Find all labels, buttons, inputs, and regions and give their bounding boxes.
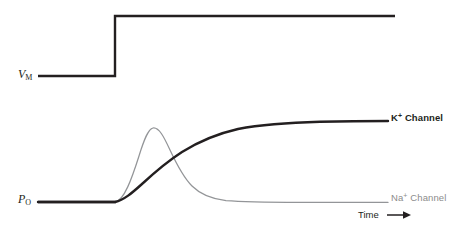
- time-arrow-icon: [387, 211, 411, 219]
- na-channel-suffix: Channel: [408, 192, 447, 203]
- na-channel-label: Na+ Channel: [391, 193, 446, 203]
- na-channel-curve: [38, 128, 388, 202]
- na-channel-charge: +: [403, 192, 407, 199]
- vm-axis-label: VM: [18, 68, 32, 80]
- k-channel-label: K+ Channel: [391, 113, 443, 123]
- voltage-step-trace: [38, 16, 395, 76]
- k-channel-ion: K: [391, 112, 398, 123]
- figure-container: VM PO K+ Channel Na+ Channel Time: [0, 0, 469, 232]
- k-channel-charge: +: [398, 112, 402, 119]
- vm-subscript: M: [25, 73, 32, 82]
- k-channel-curve: [38, 121, 388, 202]
- po-axis-label: PO: [18, 193, 31, 205]
- time-axis-label: Time: [358, 210, 379, 220]
- po-subscript: O: [25, 198, 31, 207]
- na-channel-ion: Na: [391, 192, 403, 203]
- k-channel-suffix: Channel: [402, 112, 443, 123]
